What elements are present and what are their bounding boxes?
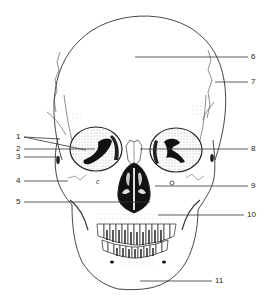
label-1: 1 <box>16 133 20 141</box>
left-infraorbital-mark: c <box>96 178 100 185</box>
maxilla-stipple <box>95 212 175 225</box>
left-mental-foramen <box>110 261 114 264</box>
label-11: 11 <box>215 277 223 285</box>
nasal-septum <box>133 168 135 210</box>
right-infraorbital-foramen <box>170 181 174 185</box>
chin-stipple <box>118 255 156 268</box>
right-temple-stipple <box>190 104 204 116</box>
right-temporal-line <box>200 95 206 140</box>
label-10: 10 <box>247 211 256 219</box>
skull-diagram: c <box>0 0 272 306</box>
left-temple-stipple <box>68 112 82 122</box>
label-7: 7 <box>251 78 255 86</box>
label-3: 3 <box>16 153 20 161</box>
right-orbit <box>150 128 202 172</box>
label-8: 8 <box>251 145 255 153</box>
label-5: 5 <box>16 198 20 206</box>
left-temporal-edge <box>47 112 66 135</box>
right-zygomatic-suture <box>186 174 204 180</box>
label-9: 9 <box>251 182 255 190</box>
label-6: 6 <box>251 53 255 61</box>
right-lateral-mark <box>210 154 214 162</box>
label-4: 4 <box>16 177 20 185</box>
left-zygomatic-suture <box>68 175 86 180</box>
right-mental-foramen <box>162 261 166 264</box>
